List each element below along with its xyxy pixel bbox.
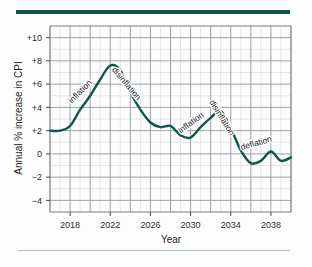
x-tick-labels: 201820222026203020342038 [60,212,281,230]
y-tick-labels: +10+8+6+4+20−2−4 [27,33,50,206]
x-tick-label: 2038 [261,220,281,230]
y-tick-label: +10 [27,33,42,43]
y-tick-label: +6 [32,79,42,89]
y-tick-label: −4 [32,196,42,206]
x-tick-label: 2022 [100,220,120,230]
y-axis-title: Annual % increase in CPI [13,61,24,174]
y-tick-label: −2 [32,172,42,182]
curve-annotations: inflationdisinflationinflationdisinflati… [66,65,273,152]
x-tick-label: 2034 [221,220,241,230]
y-tick-label: +2 [32,126,42,136]
curve-annotation-disinflation: disinflation [110,65,144,102]
y-tick-label: 0 [37,149,42,159]
x-tick-label: 2030 [181,220,201,230]
y-tick-label: +4 [32,103,42,113]
y-tick-label: +8 [32,56,42,66]
x-axis-title: Year [161,234,182,245]
x-tick-label: 2026 [140,220,160,230]
curve-annotation-deflation: deflation [239,134,273,153]
cpi-line-chart: +10+8+6+4+20−2−4 20182022202620302034203… [0,0,312,267]
chart-figure: +10+8+6+4+20−2−4 20182022202620302034203… [0,0,312,267]
x-tick-label: 2018 [60,220,80,230]
